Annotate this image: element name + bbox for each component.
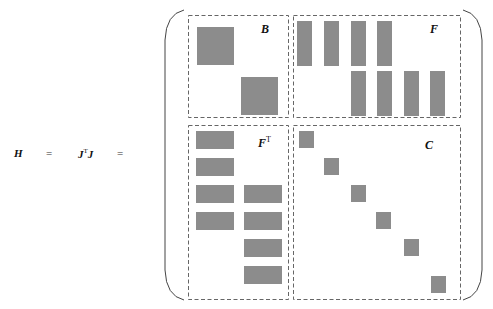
f-cell (297, 21, 312, 66)
block-c-label-text: C (425, 138, 433, 152)
c-cell (299, 131, 314, 148)
block-b-label-text: B (261, 22, 269, 36)
block-matrix-diagram (0, 0, 493, 309)
ft-cell (244, 266, 282, 284)
block-b-label: B (261, 22, 269, 37)
block-f-cells (297, 21, 445, 116)
c-cell (324, 158, 339, 175)
ft-cell (196, 158, 234, 176)
block-ft-label: FT (258, 135, 271, 151)
ft-cell (244, 212, 282, 230)
block-c-cells (299, 131, 446, 293)
c-cell (351, 185, 366, 202)
block-f-label: F (430, 22, 438, 37)
c-cell (404, 239, 419, 256)
f-cell (377, 71, 392, 116)
ft-cell (196, 131, 234, 149)
block-f-label-text: F (430, 22, 438, 36)
right-parenthesis (463, 10, 482, 300)
c-cell (431, 276, 446, 293)
f-cell (351, 71, 366, 116)
ft-cell (244, 185, 282, 203)
b-cell (197, 27, 234, 65)
f-cell (324, 21, 339, 66)
c-cell (376, 212, 391, 229)
ft-cell (244, 239, 282, 257)
f-cell (351, 21, 366, 66)
ft-cell (196, 185, 234, 203)
b-cell (241, 77, 278, 115)
f-cell (430, 71, 445, 116)
block-c-label: C (425, 138, 433, 153)
block-ft-label-sup: T (266, 135, 271, 144)
f-cell (377, 21, 392, 66)
left-parenthesis (165, 10, 184, 300)
ft-cell (196, 212, 234, 230)
block-b-cells (197, 27, 278, 115)
block-ft-label-text: F (258, 136, 266, 150)
f-cell (404, 71, 419, 116)
block-ft-cells (196, 131, 282, 284)
